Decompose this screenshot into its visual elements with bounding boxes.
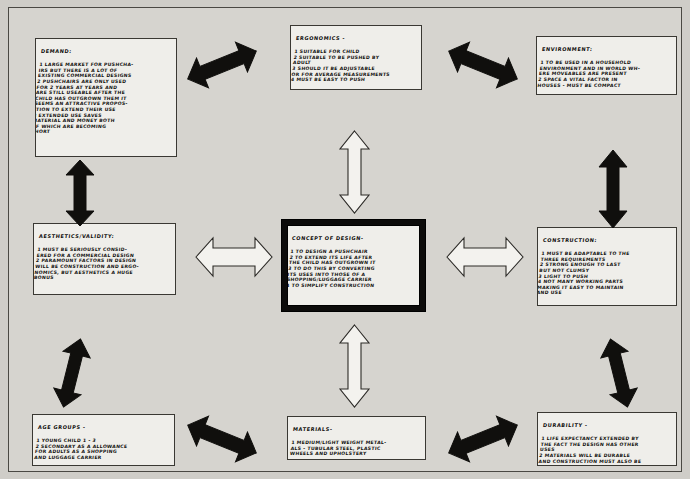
text-line: AND LUGGAGE CARRIER [34,455,165,461]
arrow-aesthetics-concept-icon [195,235,273,279]
box-age-groups[interactable]: AGE GROUPS - 1 YOUNG CHILD 1 - 32 SECOND… [32,414,175,466]
text-line: AND CONSTRUCTION MUST ALSO BE [538,459,666,465]
text-line: HOUSES - MUST BE COMPACT [537,83,666,89]
arrow-demand-ergonomics-icon [181,34,264,97]
arrow-aesthetics-age-icon [49,335,95,410]
box-environment[interactable]: ENVIRONMENT: 1 TO BE USED IN A HOUSEHOLD… [536,36,677,95]
text-line: BONUS [34,275,165,281]
box-ergonomics[interactable]: ERGONOMICS - 1 SUITABLE FOR CHILD2 SUITA… [290,25,422,90]
text-line: 4 MUST BE EASY TO PUSH [291,77,411,83]
box-durability-body: 1 LIFE EXPECTANCY EXTENDED BYTHE FACT TH… [538,436,669,466]
box-ergonomics-body: 1 SUITABLE FOR CHILD2 SUITABLE TO BE PUS… [290,49,414,88]
box-environment-title: ENVIRONMENT: [542,47,671,53]
box-aesthetics-validity[interactable]: AESTHETICS/VALIDITY: 1 MUST BE SERIOUSLY… [33,223,176,295]
box-materials-title: MATERIALS- [293,427,420,433]
box-age-groups-body: 1 YOUNG CHILD 1 - 32 SECONDARY AS A ALLO… [33,438,166,465]
box-concept-title: CONCEPT OF DESIGN- [292,236,414,242]
arrow-demand-aesthetics-icon [64,160,96,226]
box-durability[interactable]: DURABILITY - 1 LIFE EXPECTANCY EXTENDED … [537,412,677,466]
box-materials-body: 1 MEDIUM/LIGHT WEIGHT METAL-ALS - TUBULA… [289,440,418,460]
box-construction-title: CONSTRUCTION: [543,238,671,244]
box-demand-title: DEMAND: [41,49,171,55]
box-concept-inner: CONCEPT OF DESIGN- 1 TO DESIGN A PUSHCHA… [287,225,420,306]
box-ergonomics-title: ERGONOMICS - [296,36,416,42]
box-age-groups-title: AGE GROUPS - [38,425,169,431]
text-line: WHEELS AND UPHOLSTERY [290,451,417,457]
box-concept-body: 1 TO DESIGN A PUSHCHAIR2 TO EXTEND ITS L… [287,249,412,293]
arrow-materials-durability-icon [442,408,524,469]
box-durability-title: DURABILITY - [543,423,671,429]
arrow-environment-construction-icon [597,150,629,228]
arrow-concept-construction-icon [446,235,524,279]
box-concept-of-design[interactable]: CONCEPT OF DESIGN- 1 TO DESIGN A PUSHCHA… [281,219,426,312]
box-materials[interactable]: MATERIALS- 1 MEDIUM/LIGHT WEIGHT METAL-A… [287,416,426,460]
box-environment-body: 1 TO BE USED IN A HOUSEHOLDENVIRONMENT A… [537,60,669,93]
arrow-age-materials-icon [181,408,263,469]
box-construction-body: 1 MUST BE ADAPTABLE TO THETHREE REQUIREM… [537,251,669,301]
box-aesthetics-title: AESTHETICS/VALIDITY: [39,234,170,240]
text-line: SHORT [35,129,160,135]
text-line: 4 TO SIMPLIFY CONSTRUCTION [287,283,408,289]
arrow-concept-materials-icon [338,324,371,408]
page-border-frame: DEMAND: 1 LARGE MARKET FOR PUSHCHA-IRS B… [8,7,682,472]
box-aesthetics-body: 1 MUST BE SERIOUSLY CONSID-ERED FOR A CO… [33,247,168,286]
arrow-construction-durability-icon [596,335,642,410]
text-line: AND USE [537,290,664,296]
scanned-sheet: DEMAND: 1 LARGE MARKET FOR PUSHCHA-IRS B… [0,0,690,479]
box-demand[interactable]: DEMAND: 1 LARGE MARKET FOR PUSHCHA-IRS B… [35,38,177,157]
arrow-ergonomics-concept-icon [338,130,371,214]
box-demand-body: 1 LARGE MARKET FOR PUSHCHA-IRS BUT THERE… [35,62,169,140]
arrow-ergonomics-environment-icon [442,34,525,97]
box-construction[interactable]: CONSTRUCTION: 1 MUST BE ADAPTABLE TO THE… [537,227,677,306]
